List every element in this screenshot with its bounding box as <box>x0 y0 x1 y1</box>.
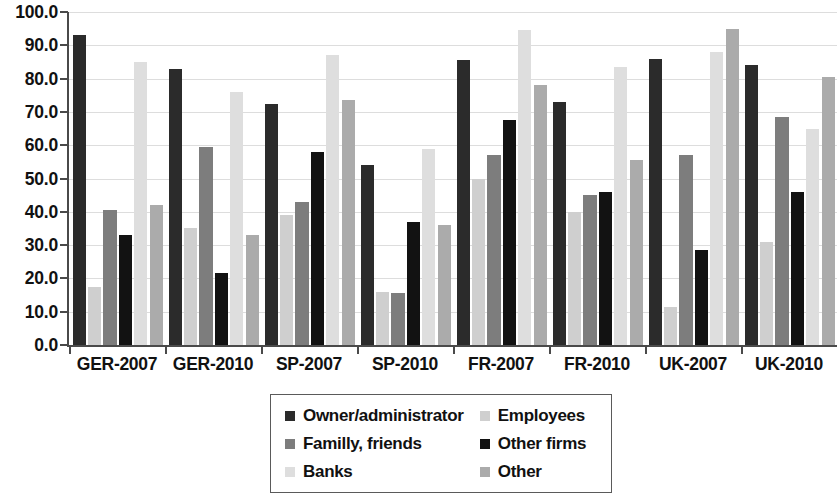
x-axis-tick-labels: GER-2007GER-2010SP-2007SP-2010FR-2007FR-… <box>0 354 837 384</box>
y-axis-tick-labels: 100.090.080.070.060.050.040.030.020.010.… <box>0 0 58 390</box>
bar <box>534 85 547 345</box>
bar <box>791 192 804 345</box>
legend-label: Familly, friends <box>303 434 422 454</box>
y-axis-tick-mark <box>60 244 68 246</box>
y-axis-tick-label: 40.0 <box>0 201 58 222</box>
legend-row: Familly, friendsOther firms <box>285 430 611 458</box>
y-axis-tick-label: 90.0 <box>0 35 58 56</box>
y-axis-tick-label: 0.0 <box>0 335 58 356</box>
bar <box>630 160 643 345</box>
bar <box>73 35 86 345</box>
x-axis-tick-mark <box>453 347 455 354</box>
legend-entry[interactable]: Other <box>480 462 611 482</box>
legend-label: Employees <box>498 406 585 426</box>
chart-legend: Owner/administratorEmployeesFamilly, fri… <box>270 394 612 493</box>
bar <box>230 92 243 345</box>
x-axis-tick-mark <box>69 347 71 354</box>
legend-swatch-icon <box>480 467 490 477</box>
bar <box>775 117 788 345</box>
bar <box>472 179 485 346</box>
legend-entry[interactable]: Owner/administrator <box>285 406 480 426</box>
bar <box>295 202 308 345</box>
legend-row: BanksOther <box>285 458 611 486</box>
bar <box>679 155 692 345</box>
legend-entry[interactable]: Other firms <box>480 434 611 454</box>
x-axis-tick-mark <box>165 347 167 354</box>
bar <box>199 147 212 345</box>
x-axis-tick-label: SP-2010 <box>372 354 438 375</box>
bar <box>326 55 339 345</box>
y-axis-tick-mark <box>60 178 68 180</box>
x-axis-tick-label: GER-2007 <box>77 354 157 375</box>
bar <box>568 212 581 345</box>
y-axis-tick-label: 100.0 <box>0 2 58 23</box>
plot-area: 100.090.080.070.060.050.040.030.020.010.… <box>0 0 837 390</box>
y-axis-tick-mark <box>60 211 68 213</box>
x-axis-tick-label: UK-2007 <box>659 354 727 375</box>
bar <box>119 235 132 345</box>
legend-swatch-icon <box>480 411 490 421</box>
y-axis-tick-mark <box>60 277 68 279</box>
bar <box>503 120 516 345</box>
y-axis-tick-label: 10.0 <box>0 301 58 322</box>
legend-entry[interactable]: Banks <box>285 462 480 482</box>
y-axis-tick-mark <box>60 44 68 46</box>
bar <box>760 242 773 345</box>
bar <box>391 293 404 345</box>
x-axis-line <box>67 345 837 347</box>
bar <box>806 129 819 345</box>
bar <box>246 235 259 345</box>
bar <box>311 152 324 345</box>
bar <box>422 149 435 345</box>
y-axis-tick-mark <box>60 311 68 313</box>
x-axis-tick-label: SP-2007 <box>276 354 342 375</box>
y-axis-tick-label: 80.0 <box>0 68 58 89</box>
bar <box>583 195 596 345</box>
bar <box>88 287 101 345</box>
legend-swatch-icon <box>285 439 295 449</box>
x-axis-tick-label: GER-2010 <box>173 354 253 375</box>
y-axis-tick-mark <box>60 78 68 80</box>
bar <box>150 205 163 345</box>
bar <box>184 228 197 345</box>
bars-layer <box>0 0 837 390</box>
legend-label: Banks <box>303 462 353 482</box>
x-axis-tick-label: FR-2010 <box>564 354 630 375</box>
legend-entry[interactable]: Employees <box>480 406 611 426</box>
legend-label: Other firms <box>498 434 586 454</box>
bar <box>487 155 500 345</box>
bar <box>376 292 389 345</box>
legend-entry[interactable]: Familly, friends <box>285 434 480 454</box>
x-axis-tick-mark <box>549 347 551 354</box>
bar <box>745 65 758 345</box>
y-axis-tick-label: 30.0 <box>0 235 58 256</box>
legend-label: Owner/administrator <box>303 406 464 426</box>
bar <box>518 30 531 345</box>
bar-chart-figure: 100.090.080.070.060.050.040.030.020.010.… <box>0 0 837 499</box>
y-axis-tick-label: 60.0 <box>0 135 58 156</box>
x-axis-tick-mark <box>357 347 359 354</box>
bar <box>614 67 627 345</box>
bar <box>169 69 182 345</box>
y-axis-tick-label: 50.0 <box>0 168 58 189</box>
bar <box>664 307 677 345</box>
y-axis-tick-mark <box>60 344 68 346</box>
bar <box>726 29 739 345</box>
y-axis-tick-mark <box>60 11 68 13</box>
x-axis-tick-mark <box>261 347 263 354</box>
bar <box>134 62 147 345</box>
x-axis-tick-label: FR-2007 <box>468 354 534 375</box>
bar <box>457 60 470 345</box>
bar <box>407 222 420 345</box>
legend-swatch-icon <box>285 411 295 421</box>
bar <box>342 100 355 345</box>
legend-label: Other <box>498 462 542 482</box>
y-axis-tick-label: 20.0 <box>0 268 58 289</box>
legend-swatch-icon <box>285 467 295 477</box>
bar <box>280 215 293 345</box>
x-axis-tick-mark <box>645 347 647 354</box>
bar <box>361 165 374 345</box>
bar <box>649 59 662 345</box>
bar <box>215 273 228 345</box>
bar <box>822 77 835 345</box>
